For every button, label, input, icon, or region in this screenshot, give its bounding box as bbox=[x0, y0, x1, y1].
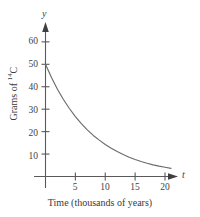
x-tick-label-15: 15 bbox=[127, 183, 143, 193]
x-axis-variable-label: t bbox=[182, 170, 185, 180]
y-tick-label-50: 50 bbox=[20, 60, 38, 70]
y-axis-title-base: Grams of bbox=[8, 81, 19, 121]
carbon-14-decay-chart: 60 50 40 30 20 10 5 10 15 20 y t Time (t… bbox=[0, 0, 200, 217]
y-axis-arrowhead bbox=[42, 22, 49, 32]
x-axis-arrowhead bbox=[168, 173, 178, 180]
x-tick-label-10: 10 bbox=[97, 183, 113, 193]
y-axis-variable-label: y bbox=[42, 9, 46, 19]
y-tick-label-20: 20 bbox=[20, 129, 38, 139]
y-axis-title-superscript: 14 bbox=[6, 74, 14, 81]
y-tick-label-30: 30 bbox=[20, 106, 38, 116]
y-axis-title: Grams of 14C bbox=[7, 44, 18, 144]
y-tick-label-60: 60 bbox=[20, 37, 38, 47]
x-tick-label-20: 20 bbox=[157, 183, 173, 193]
y-axis-title-suffix: C bbox=[8, 67, 19, 74]
y-tick-label-40: 40 bbox=[20, 83, 38, 93]
decay-curve bbox=[46, 64, 171, 168]
x-axis-title: Time (thousands of years) bbox=[0, 198, 200, 208]
y-tick-label-10: 10 bbox=[20, 152, 38, 162]
x-tick-label-5: 5 bbox=[67, 183, 83, 193]
